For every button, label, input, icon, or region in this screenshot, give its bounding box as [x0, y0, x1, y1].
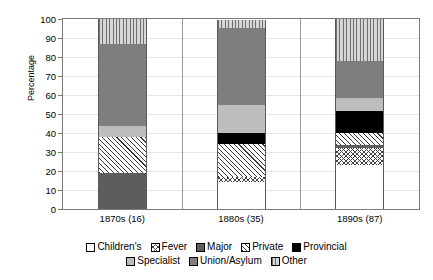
- bar-segment-fever: [217, 177, 266, 183]
- y-axis-tick: [58, 95, 63, 96]
- category-separator: [300, 19, 301, 209]
- y-axis-tick-label: 60: [26, 90, 56, 101]
- bar-segment-union-asylum: [335, 61, 384, 98]
- y-axis-tick-label: 80: [26, 52, 56, 63]
- bar-segment-fever: [335, 148, 384, 165]
- legend-item-specialist: Specialist: [126, 254, 180, 268]
- bar-segment-private: [217, 144, 266, 176]
- bar-segment-provincial: [217, 133, 266, 144]
- bar-segment-specialist: [98, 126, 147, 136]
- bar-segment-other: [217, 20, 266, 28]
- bar-segment-other: [335, 19, 384, 61]
- y-axis-tick-label: 20: [26, 166, 56, 177]
- x-axis-label: 1870s (16): [100, 213, 145, 224]
- legend-swatch: [292, 243, 301, 252]
- y-axis-tick-label: 40: [26, 128, 56, 139]
- bar-segment-children-s: [335, 165, 384, 209]
- y-axis-tick: [58, 152, 63, 153]
- legend-swatch: [151, 243, 160, 252]
- y-axis-tick: [58, 57, 63, 58]
- legend-swatch: [126, 257, 135, 266]
- bar-segment-provincial: [335, 111, 384, 133]
- legend-item-private: Private: [241, 240, 283, 254]
- y-axis-tick: [58, 133, 63, 134]
- legend-item-major: Major: [196, 240, 232, 254]
- legend-swatch: [271, 257, 280, 266]
- stacked-bar: [98, 19, 147, 209]
- y-axis-tick-label: 30: [26, 147, 56, 158]
- y-axis-tick: [58, 38, 63, 39]
- legend-label: Private: [252, 240, 283, 254]
- bar-segment-major: [335, 145, 384, 148]
- legend-item-children-s: Children's: [86, 240, 141, 254]
- legend-item-other: Other: [271, 254, 307, 268]
- bar-segment-children-s: [217, 182, 266, 209]
- bar-segment-private: [98, 137, 147, 173]
- legend-swatch: [189, 257, 198, 266]
- bar-segment-union-asylum: [98, 44, 147, 127]
- legend-label: Union/Asylum: [200, 254, 262, 268]
- legend-swatch: [86, 243, 95, 252]
- x-axis-label: 1890s (87): [337, 213, 382, 224]
- bar-segment-major: [98, 173, 147, 209]
- y-axis-tick: [58, 171, 63, 172]
- x-axis-label: 1880s (35): [218, 213, 263, 224]
- stacked-bar: [217, 19, 266, 209]
- bar-segment-union-asylum: [217, 28, 266, 106]
- y-axis-tick: [58, 209, 63, 210]
- legend-item-fever: Fever: [151, 240, 188, 254]
- chart-legend: Children'sFeverMajorPrivateProvincial Sp…: [0, 240, 433, 268]
- bar-segment-specialist: [335, 98, 384, 111]
- legend-swatch: [196, 243, 205, 252]
- y-axis-tick-label: 50: [26, 109, 56, 120]
- stacked-bar: [335, 19, 384, 209]
- y-axis-tick-label: 0: [26, 204, 56, 215]
- bar-segment-private: [335, 133, 384, 145]
- legend-item-provincial: Provincial: [292, 240, 346, 254]
- y-axis-tick-label: 10: [26, 185, 56, 196]
- category-separator: [182, 19, 183, 209]
- y-axis-tick: [58, 114, 63, 115]
- stacked-bar-chart: Percentage 0102030405060708090100 1870s …: [0, 0, 433, 280]
- y-axis-tick: [58, 19, 63, 20]
- y-axis-tick: [58, 76, 63, 77]
- bar-segment-specialist: [217, 105, 266, 133]
- y-axis-tick: [58, 190, 63, 191]
- legend-row-2: SpecialistUnion/AsylumOther: [0, 254, 433, 268]
- y-axis-tick-label: 70: [26, 71, 56, 82]
- legend-swatch: [241, 243, 250, 252]
- bar-segment-other: [98, 19, 147, 44]
- legend-item-union-asylum: Union/Asylum: [189, 254, 262, 268]
- legend-row-1: Children'sFeverMajorPrivateProvincial: [0, 240, 433, 254]
- y-axis-tick-label: 100: [26, 14, 56, 25]
- legend-label: Fever: [162, 240, 188, 254]
- legend-label: Children's: [97, 240, 141, 254]
- legend-label: Provincial: [303, 240, 346, 254]
- legend-label: Specialist: [137, 254, 180, 268]
- plot-area: 0102030405060708090100 1870s (16)1880s (…: [62, 18, 420, 210]
- legend-label: Other: [282, 254, 307, 268]
- y-axis-tick-label: 90: [26, 33, 56, 44]
- legend-label: Major: [207, 240, 232, 254]
